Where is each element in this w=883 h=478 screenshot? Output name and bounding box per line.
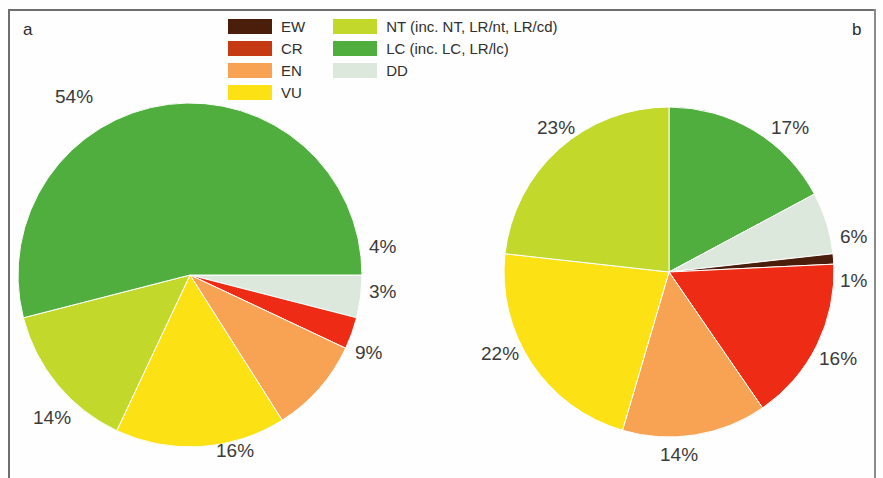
legend-swatch-dd [333, 63, 377, 78]
legend-swatch-lc [333, 41, 377, 56]
pie-a-label-nt: 14% [33, 407, 71, 429]
legend-column-right: NT (inc. NT, LR/nt, LR/cd) LC (inc. LC, … [333, 17, 557, 101]
pie-b-label-vu: 22% [481, 343, 519, 365]
legend-item-en: EN [228, 61, 305, 79]
pie-a-label-cr: 3% [369, 281, 396, 303]
pie-a-label-lc: 54% [55, 86, 93, 108]
legend-item-cr: CR [228, 39, 305, 57]
pie-chart-a [17, 102, 363, 448]
frame-top-rule [8, 9, 875, 11]
legend-swatch-cr [228, 41, 272, 56]
legend-label-nt: NT (inc. NT, LR/nt, LR/cd) [386, 19, 557, 34]
legend-column-left: EW CR EN VU [228, 17, 305, 101]
frame-right-rule [874, 9, 876, 478]
pie-b-label-nt: 23% [537, 117, 575, 139]
pie-a-label-dd: 4% [369, 236, 396, 258]
pie-b-label-ew: 1% [840, 270, 867, 292]
chart-legend: EW CR EN VU NT (inc. NT, LR/nt, LR/cd) [228, 17, 558, 101]
pie-b-label-en: 14% [660, 444, 698, 466]
legend-label-dd: DD [386, 63, 408, 78]
legend-swatch-nt [333, 19, 377, 34]
pie-chart-b [503, 106, 835, 438]
pie-slice-nt [505, 107, 669, 272]
legend-item-dd: DD [333, 61, 557, 79]
pie-b-svg [503, 106, 835, 438]
legend-swatch-en [228, 63, 272, 78]
legend-swatch-vu [228, 85, 272, 100]
pie-a-label-en: 9% [355, 342, 382, 364]
pie-a-svg [17, 102, 363, 448]
legend-swatch-ew [228, 19, 272, 34]
figure-container: a b EW CR EN VU NT (inc. NT [0, 0, 883, 478]
pie-b-label-lc: 17% [771, 117, 809, 139]
legend-label-vu: VU [281, 85, 302, 100]
legend-label-lc: LC (inc. LC, LR/lc) [386, 41, 509, 56]
legend-label-ew: EW [281, 19, 305, 34]
legend-label-en: EN [281, 63, 302, 78]
legend-item-nt: NT (inc. NT, LR/nt, LR/cd) [333, 17, 557, 35]
panel-label-a: a [23, 20, 32, 40]
pie-a-label-vu: 16% [216, 440, 254, 462]
legend-item-lc: LC (inc. LC, LR/lc) [333, 39, 557, 57]
pie-b-label-cr: 16% [819, 348, 857, 370]
legend-item-vu: VU [228, 83, 305, 101]
legend-label-cr: CR [281, 41, 303, 56]
legend-item-ew: EW [228, 17, 305, 35]
panel-label-b: b [852, 20, 861, 40]
pie-b-label-dd: 6% [840, 226, 867, 248]
frame-left-rule [8, 9, 10, 478]
